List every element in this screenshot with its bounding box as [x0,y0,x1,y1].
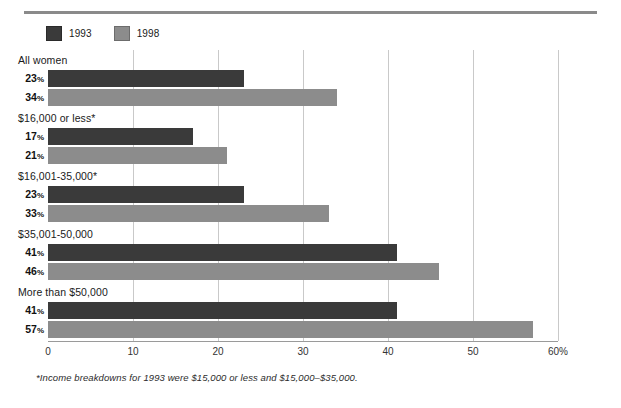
chart-figure: 1993 1998 All women23%34%$16,000 or less… [0,0,621,408]
bar-value-label: 23% [0,188,44,200]
legend-item-1993: 1993 [46,26,92,41]
legend-swatch-icon-1998 [114,26,130,41]
top-divider-rule [24,11,597,14]
gridline [473,50,474,341]
bar-1998 [48,147,227,164]
bar-group-label: More than $50,000 [18,286,108,298]
bar-group-label: $16,000 or less* [18,112,95,124]
bar-1998 [48,205,329,222]
bar-1993 [48,70,244,87]
bar-1993 [48,186,244,203]
legend-swatch-icon-1993 [46,26,62,41]
bar-value-label: 33% [0,207,44,219]
bar-value-label: 57% [0,323,44,335]
bar-1998 [48,89,337,106]
bar-value-label: 23% [0,72,44,84]
bar-1998 [48,321,533,338]
chart-legend: 1993 1998 [46,26,159,41]
x-axis-line [48,341,558,342]
x-tick-label: 60% [548,346,568,357]
x-tick-label: 50 [467,346,478,357]
bar-1993 [48,244,397,261]
x-tick-label: 40 [382,346,393,357]
bar-value-label: 41% [0,246,44,258]
bar-1998 [48,263,439,280]
bar-value-label: 21% [0,149,44,161]
legend-label-1993: 1993 [69,28,92,39]
bar-1993 [48,302,397,319]
bar-value-label: 17% [0,130,44,142]
gridline [388,50,389,341]
plot-area: All women23%34%$16,000 or less*17%21%$16… [0,50,621,350]
x-tick-label: 20 [212,346,223,357]
bar-value-label: 41% [0,304,44,316]
legend-item-1998: 1998 [114,26,160,41]
bar-1993 [48,128,193,145]
x-tick-label: 10 [127,346,138,357]
bar-group-label: $16,001-35,000* [18,170,97,182]
x-tick-label: 30 [297,346,308,357]
gridline [558,50,559,341]
chart-footnote: *Income breakdowns for 1993 were $15,000… [36,372,358,383]
bar-value-label: 46% [0,265,44,277]
bar-group-label: $35,001-50,000 [18,228,93,240]
x-tick-label: 0 [45,346,51,357]
legend-label-1998: 1998 [137,28,160,39]
bar-group-label: All women [18,54,67,66]
bar-value-label: 34% [0,91,44,103]
